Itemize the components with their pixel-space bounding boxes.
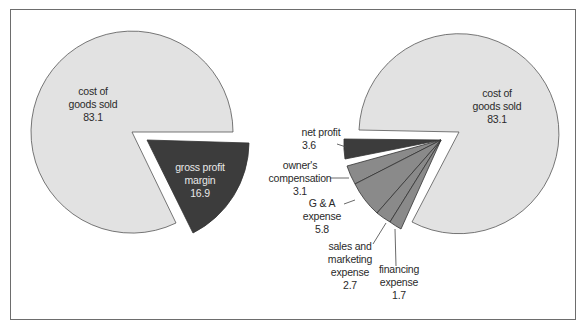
leader-financing [395, 229, 396, 266]
leader-ga [344, 200, 355, 204]
sales-label-line3: expense [324, 266, 376, 279]
right-net-profit-label: net profit 3.6 [296, 126, 346, 152]
left-gpm-value: 16.9 [167, 187, 233, 200]
sales-label-line1: sales and [324, 240, 376, 253]
net-profit-value: 3.6 [296, 139, 346, 152]
ga-value: 5.8 [300, 223, 344, 236]
financing-label-line1: financing [374, 263, 424, 276]
ga-label-line1: G & A [300, 197, 344, 210]
right-cogs-label-line1: cost of [467, 87, 527, 100]
net-profit-label-line1: net profit [296, 126, 346, 139]
financing-label-line2: expense [374, 276, 424, 289]
left-cogs-value: 83.1 [63, 111, 123, 124]
financing-value: 1.7 [374, 289, 424, 302]
left-cogs-label: cost of goods sold 83.1 [63, 85, 123, 124]
right-financing-label: financing expense 1.7 [374, 263, 424, 302]
sales-label-line2: marketing [324, 253, 376, 266]
right-cogs-label: cost of goods sold 83.1 [467, 87, 527, 126]
left-gpm-label: gross profit margin 16.9 [167, 161, 233, 200]
right-owners-comp-label: owner's compensation 3.1 [268, 159, 332, 198]
ga-label-line2: expense [300, 210, 344, 223]
right-cogs-label-line2: goods sold [467, 100, 527, 113]
left-cogs-label-line1: cost of [63, 85, 123, 98]
left-gpm-label-line1: gross profit [167, 161, 233, 174]
right-sales-label: sales and marketing expense 2.7 [324, 240, 376, 292]
sales-value: 2.7 [324, 279, 376, 292]
left-cogs-label-line2: goods sold [63, 98, 123, 111]
left-gpm-label-line2: margin [167, 174, 233, 187]
right-cogs-value: 83.1 [467, 113, 527, 126]
owners-comp-label-line2: compensation [268, 172, 332, 185]
owners-comp-label-line1: owner's [268, 159, 332, 172]
right-ga-label: G & A expense 5.8 [300, 197, 344, 236]
